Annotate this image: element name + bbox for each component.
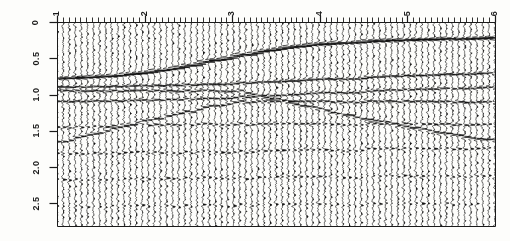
y-tick-label-text: 1.5 — [31, 124, 40, 138]
x-tick-label-6: 6 — [484, 7, 506, 19]
y-tick-label-text: 1.0 — [31, 88, 40, 102]
y-tick-label-text: 0 — [31, 19, 40, 25]
x-tick-label-2: 2 — [134, 7, 156, 19]
seismic-section-figure: 1 2 3 4 5 6 0 0.5 1.0 1.5 2.0 2.5 — [0, 0, 510, 241]
x-tick-label-text: 3 — [228, 10, 237, 16]
x-tick-label-text: 6 — [490, 10, 499, 16]
y-tick-label-2p0: 2.0 — [25, 161, 47, 173]
x-tick-label-text: 2 — [140, 10, 149, 16]
y-tick-label-1p5: 1.5 — [25, 125, 47, 137]
y-tick-label-text: 2.0 — [31, 160, 40, 174]
x-tick-label-1: 1 — [46, 7, 68, 19]
y-tick-label-0p5: 0.5 — [25, 52, 47, 64]
seismic-wiggle-plot — [0, 0, 510, 241]
x-tick-label-text: 4 — [315, 10, 324, 16]
y-tick-label-1p0: 1.0 — [25, 89, 47, 101]
y-tick-label-2p5: 2.5 — [25, 197, 47, 209]
x-tick-label-5: 5 — [396, 7, 418, 19]
y-tick-label-text: 2.5 — [31, 196, 40, 210]
x-tick-label-4: 4 — [309, 7, 331, 19]
x-tick-label-3: 3 — [221, 7, 243, 19]
x-tick-label-text: 5 — [403, 10, 412, 16]
x-tick-label-text: 1 — [52, 10, 61, 16]
y-tick-label-text: 0.5 — [31, 51, 40, 65]
y-tick-label-0: 0 — [25, 16, 47, 28]
